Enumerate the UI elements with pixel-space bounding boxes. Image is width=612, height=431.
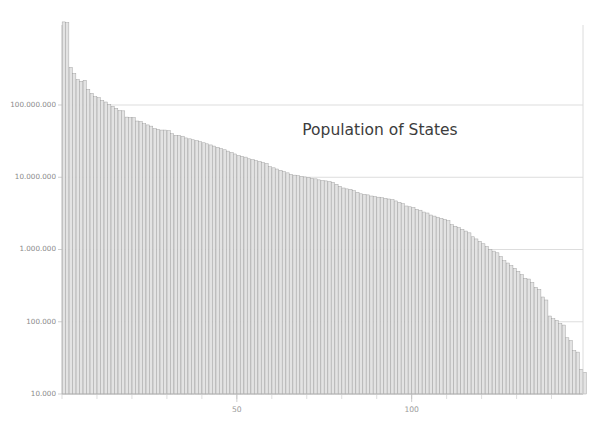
y-axis-tick-label: 100.000.000: [10, 100, 56, 109]
bar: [261, 163, 264, 395]
bar: [104, 102, 107, 394]
bar: [552, 319, 555, 394]
bar: [268, 167, 271, 394]
bar: [538, 289, 541, 394]
bar: [164, 130, 167, 394]
bar: [167, 131, 170, 394]
bar: [202, 143, 205, 394]
bar: [433, 216, 436, 394]
bar: [310, 178, 313, 394]
chart-svg: 10.000100.0001.000.00010.000.000100.000.…: [0, 0, 612, 431]
bar: [380, 198, 383, 394]
bar: [454, 226, 457, 394]
bar: [171, 134, 174, 394]
bar: [111, 106, 114, 394]
bar: [216, 147, 219, 394]
bar: [457, 228, 460, 394]
chart-title: Population of States: [302, 121, 457, 139]
bar: [240, 156, 243, 394]
bar: [489, 250, 492, 395]
bar: [247, 159, 250, 394]
bar: [405, 206, 408, 394]
y-axis-tick-label: 100.000: [26, 317, 56, 326]
bar: [282, 172, 285, 394]
bar: [136, 121, 139, 394]
bar: [569, 341, 572, 394]
bar: [73, 73, 76, 394]
bar: [219, 149, 222, 395]
x-axis-tick-label: 50: [232, 405, 242, 414]
bar: [534, 287, 537, 394]
bar: [443, 220, 446, 394]
bar: [331, 182, 334, 394]
bar: [464, 231, 467, 394]
bar: [300, 176, 303, 394]
bar: [503, 261, 506, 394]
bar: [101, 100, 104, 394]
bar: [237, 156, 240, 395]
bar: [289, 174, 292, 394]
bar: [335, 184, 338, 394]
bar: [296, 176, 299, 394]
bar: [352, 191, 355, 394]
bar: [370, 196, 373, 394]
bar: [265, 164, 268, 395]
bar: [436, 217, 439, 394]
bar: [426, 213, 429, 394]
y-axis-tick-labels: 10.000100.0001.000.00010.000.000100.000.…: [10, 100, 62, 398]
y-axis-tick-label: 10.000: [31, 389, 57, 398]
bar: [174, 135, 177, 394]
bar: [499, 257, 502, 395]
bar: [391, 200, 394, 394]
bar: [209, 145, 212, 394]
bar: [566, 338, 569, 394]
bar: [429, 215, 432, 394]
bar: [199, 142, 202, 394]
bar: [192, 140, 195, 394]
y-axis-tick-label: 10.000.000: [15, 172, 57, 181]
bar: [338, 186, 341, 394]
bar: [580, 369, 583, 394]
bar: [223, 150, 226, 394]
bar: [342, 188, 345, 394]
bar: [412, 208, 415, 394]
bar: [492, 251, 495, 394]
bar: [419, 210, 422, 394]
y-axis-tick-label: 1.000.000: [19, 244, 56, 253]
bar: [394, 201, 397, 394]
bar: [573, 351, 576, 395]
bar: [415, 209, 418, 394]
bar: [139, 122, 142, 394]
bar: [524, 278, 527, 394]
bar: [349, 189, 352, 394]
bar: [90, 93, 93, 394]
bar: [387, 199, 390, 394]
bar: [181, 136, 184, 394]
bar: [527, 279, 530, 394]
bar: [83, 80, 86, 394]
bar: [531, 282, 534, 394]
bar: [513, 268, 516, 394]
bar: [482, 244, 485, 394]
bar: [545, 300, 548, 394]
bar: [251, 160, 254, 394]
bar: [517, 271, 520, 394]
population-bar-chart: 10.000100.0001.000.00010.000.000100.000.…: [0, 0, 612, 431]
bar: [496, 253, 499, 394]
bar: [143, 124, 146, 394]
bar: [244, 157, 247, 394]
bar: [468, 233, 471, 394]
bar: [401, 204, 404, 394]
bar: [69, 67, 72, 394]
bar: [450, 225, 453, 394]
bar: [520, 275, 523, 394]
bar: [485, 247, 488, 394]
bar: [66, 23, 69, 394]
bar: [258, 162, 261, 394]
bar: [125, 117, 128, 394]
bar: [408, 207, 411, 394]
bar: [233, 154, 236, 394]
bar: [317, 180, 320, 394]
bar: [87, 89, 90, 394]
bar: [359, 194, 362, 394]
